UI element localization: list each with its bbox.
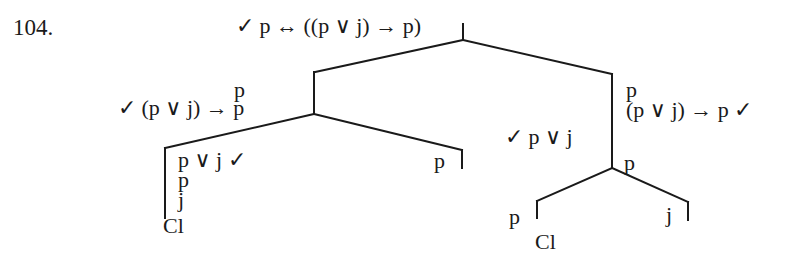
root-formula: ✓ p ↔ ((p ∨ j) → p) (236, 15, 421, 37)
right-node-label: p (624, 152, 635, 174)
left-branch-right (314, 114, 462, 150)
right-left-node-label: p (509, 206, 520, 228)
root-branch-left (315, 40, 463, 72)
right-branch-lines: p (p ∨ j) → p ✓ (626, 80, 752, 120)
right-side-formula: ✓ p ∨ j (505, 126, 573, 148)
node-line: j (178, 190, 246, 210)
left-branch-formula: ✓ (p ∨ j) → p (118, 97, 244, 119)
node-line: (p ∨ j) → p ✓ (626, 100, 752, 120)
right-branch-left (537, 168, 612, 201)
problem-number: 104. (13, 17, 53, 39)
left-right-node-label: p (434, 150, 445, 172)
right-left-closed-marker: Cl (535, 231, 556, 253)
root-branch-right (463, 40, 612, 74)
node-line: p (178, 170, 246, 190)
truth-tree-diagram: 104. ✓ p ↔ ((p ∨ j) → p) p ✓ (p ∨ j) → p… (0, 0, 788, 263)
left-left-closed-marker: Cl (163, 215, 184, 237)
left-left-node-lines: p ∨ j ✓ p j (178, 150, 246, 210)
right-right-node-label: j (666, 204, 672, 226)
